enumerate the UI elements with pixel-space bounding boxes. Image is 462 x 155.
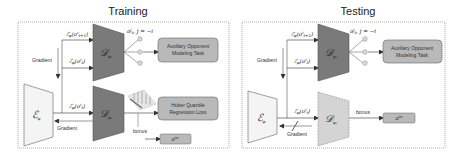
label-obs-lower: ℰφ(oit)	[294, 107, 310, 115]
huber-line2: Regression Loss	[169, 109, 207, 115]
decoder-quantile-block	[93, 86, 124, 141]
bonus-label: bonus	[356, 109, 371, 115]
label-obs-upper: ℰφ(oit)	[69, 57, 85, 65]
aux-task-line2: Modeling Task	[396, 52, 428, 58]
gradient-label-lower: Gradient	[287, 131, 307, 137]
gradient-label-upper: Gradient	[257, 57, 277, 63]
opponent-actions-label: ajt, j = −i	[127, 27, 153, 35]
gradient-label-upper: Gradient	[32, 57, 52, 63]
bonus-label: bonus	[133, 128, 148, 134]
aux-task-line1: Auxiliary Opponent	[391, 45, 434, 51]
opponent-actions-label: ajt, j = −i	[350, 27, 376, 35]
label-next-obs: ℰφ(oit+1)	[66, 30, 88, 38]
decoder-opponent-block	[93, 24, 124, 81]
testing-title: Testing	[341, 5, 376, 17]
training-panel: Training ℰφ ℰφ(oit+1) ℰφ(oit) ℰφ(oit) Gr…	[18, 5, 229, 148]
testing-panel: Testing ℰφ ℰφ(oit+1) ℰφ(oit) ℰφ(oit) Gra…	[242, 5, 445, 148]
opponent-action-outputs	[124, 37, 142, 66]
label-obs-lower: ℰφ(oit)	[69, 102, 85, 110]
aux-task-line2: Modeling Task	[172, 50, 204, 56]
gradient-label-lower: Gradient	[57, 125, 77, 131]
training-title: Training	[108, 5, 147, 17]
decoder-opponent-block	[318, 24, 349, 81]
decoder-quantile-block-frozen	[318, 92, 349, 146]
diagram-canvas: Training ℰφ ℰφ(oit+1) ℰφ(oit) ℰφ(oit) Gr…	[0, 0, 462, 155]
label-obs-upper: ℰφ(oit)	[294, 57, 310, 65]
aux-task-line1: Auxiliary Opponent	[167, 43, 210, 49]
huber-line1: Huber Quantile	[171, 102, 205, 108]
encoder-block	[24, 84, 53, 146]
opponent-action-outputs	[349, 37, 367, 66]
quantile-distribution-icon	[128, 90, 156, 110]
label-next-obs: ℰφ(oit+1)	[291, 30, 313, 38]
